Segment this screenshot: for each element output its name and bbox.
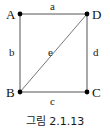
vertex-dot-D <box>85 12 90 17</box>
figure-caption: 그림 2.1.13 <box>0 112 110 128</box>
vertex-dot-C <box>85 90 90 95</box>
edge-label-a: a <box>50 1 55 12</box>
vertex-label-a: A <box>6 8 15 21</box>
vertex-label-d: D <box>92 8 101 21</box>
edge-label-c: c <box>50 96 55 107</box>
figure-container: A D B C a b c d e 그림 2.1.13 <box>0 0 110 134</box>
edge-e-diagonal-line <box>20 14 87 92</box>
vertex-dot-B <box>18 90 23 95</box>
edge-label-b: b <box>9 47 15 58</box>
vertex-dot-A <box>18 12 23 17</box>
vertex-label-c: C <box>92 86 101 99</box>
vertex-label-b: B <box>6 86 15 99</box>
edge-label-e: e <box>48 47 53 58</box>
edge-label-d: d <box>93 47 99 58</box>
